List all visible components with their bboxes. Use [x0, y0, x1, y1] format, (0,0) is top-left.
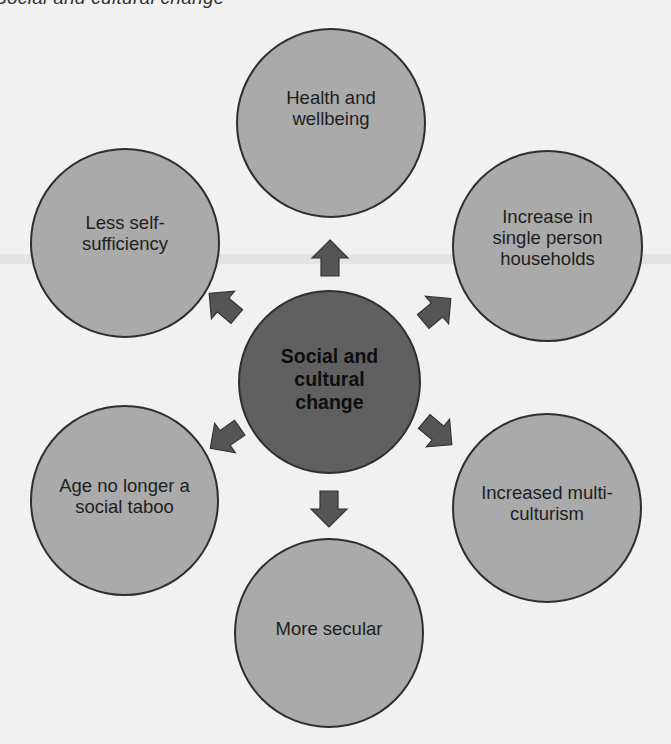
node-label: Increased multi- culturism — [481, 482, 613, 524]
node-less-self-sufficiency: Less self- sufficiency — [30, 148, 220, 338]
arrow-down-icon — [309, 489, 349, 529]
center-node-label: Social and cultural change — [281, 345, 379, 414]
center-node-social-cultural-change: Social and cultural change — [238, 290, 421, 474]
arrow-up-right-icon — [409, 282, 465, 338]
node-label: Less self- sufficiency — [82, 212, 168, 254]
arrow-up-icon — [310, 238, 350, 278]
node-more-secular: More secular — [234, 538, 424, 728]
node-single-person-households: Increase in single person households — [452, 150, 643, 342]
node-label: Increase in single person households — [492, 206, 602, 269]
node-multiculturism: Increased multi- culturism — [452, 413, 642, 603]
arrow-down-right-icon — [410, 405, 466, 461]
node-health-and-wellbeing: Health and wellbeing — [236, 28, 426, 218]
node-label: Age no longer a social taboo — [59, 475, 190, 517]
node-label: More secular — [276, 618, 383, 639]
page-title: Social and cultural change — [0, 0, 225, 9]
node-age-no-longer-taboo: Age no longer a social taboo — [30, 405, 219, 596]
node-label: Health and wellbeing — [286, 87, 375, 129]
